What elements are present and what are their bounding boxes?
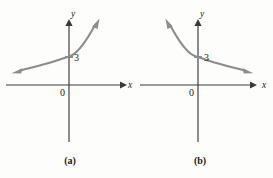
panel-caption-a: (a) xyxy=(64,155,76,167)
x-axis-label-a: x xyxy=(127,80,133,90)
exponential-curve-b xyxy=(170,25,245,71)
y-axis-arrowhead-a xyxy=(65,19,72,26)
y-intercept-label-b: 3 xyxy=(204,52,209,63)
exponential-curve-a xyxy=(20,25,95,71)
graph-panel-a: 3 0 x y (a) xyxy=(0,0,137,178)
graph-panel-b: 3 0 x y (b) xyxy=(136,0,273,178)
origin-label-b: 0 xyxy=(189,87,194,98)
figure-root: 3 0 x y (a) 3 0 x y (b) xyxy=(0,0,273,178)
x-axis-label-b: x xyxy=(261,80,267,90)
panel-caption-b: (b) xyxy=(194,155,206,167)
y-intercept-label-a: 3 xyxy=(74,52,79,63)
origin-label-a: 0 xyxy=(60,87,65,98)
curve-arrowhead-lower-left-a xyxy=(12,68,23,73)
x-axis-arrowhead-b xyxy=(250,81,257,88)
y-axis-label-b: y xyxy=(199,9,205,19)
x-axis-arrowhead-a xyxy=(120,81,127,88)
y-axis-arrowhead-b xyxy=(194,19,201,26)
y-axis-label-a: y xyxy=(70,9,76,19)
curve-arrowhead-lower-right-b xyxy=(243,68,254,73)
